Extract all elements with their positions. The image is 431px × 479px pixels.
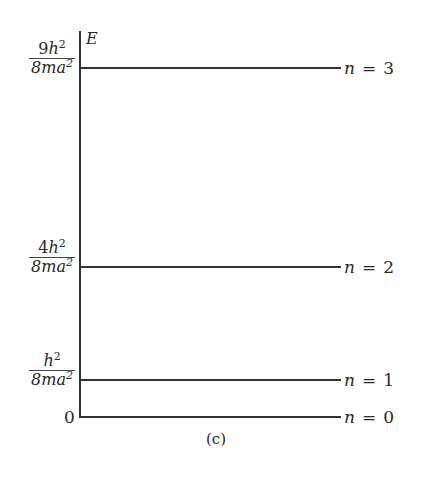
equals-sign: = — [362, 257, 376, 277]
level-label-n3: n=3 — [344, 59, 394, 77]
n-symbol: n — [344, 58, 355, 78]
exponent: 2 — [66, 369, 73, 382]
equals-sign: = — [362, 407, 376, 427]
n-value: 1 — [383, 370, 394, 390]
energy-label-n2: 4h2 8ma2 — [29, 239, 75, 276]
level-label-n1: n=1 — [344, 371, 394, 389]
n-symbol: n — [344, 370, 355, 390]
level-label-n2: n=2 — [344, 258, 394, 276]
denominator-text: 8ma — [31, 370, 66, 389]
variable-h: h — [48, 39, 58, 58]
exponent: 2 — [66, 256, 73, 269]
fraction-denominator: 8ma2 — [29, 59, 75, 77]
coefficient: 9 — [38, 39, 48, 58]
denominator-text: 8ma — [31, 58, 66, 77]
fraction-denominator: 8ma2 — [29, 371, 75, 389]
axis-label-energy: E — [86, 29, 98, 48]
n-value: 2 — [383, 257, 394, 277]
exponent: 2 — [59, 237, 66, 250]
equals-sign: = — [362, 370, 376, 390]
variable-h: h — [43, 351, 53, 370]
n-symbol: n — [344, 257, 355, 277]
energy-axis — [79, 31, 81, 418]
exponent: 2 — [66, 57, 73, 70]
denominator-text: 8ma — [31, 257, 66, 276]
n-value: 3 — [383, 58, 394, 78]
equals-sign: = — [362, 58, 376, 78]
exponent: 2 — [54, 350, 61, 363]
energy-label-n3: 9h2 8ma2 — [29, 40, 75, 77]
variable-h: h — [48, 238, 58, 257]
energy-label-n1: h2 8ma2 — [29, 352, 75, 389]
energy-level-n2 — [79, 266, 341, 268]
energy-label-zero: 0 — [64, 407, 75, 427]
energy-level-n3 — [79, 67, 341, 69]
n-value: 0 — [383, 407, 394, 427]
energy-level-n1 — [79, 379, 341, 381]
n-symbol: n — [344, 407, 355, 427]
figure-caption: (c) — [206, 430, 226, 448]
fraction-denominator: 8ma2 — [29, 258, 75, 276]
energy-level-n0 — [79, 416, 341, 418]
exponent: 2 — [59, 38, 66, 51]
coefficient: 4 — [38, 238, 48, 257]
level-label-n0: n=0 — [344, 408, 394, 426]
